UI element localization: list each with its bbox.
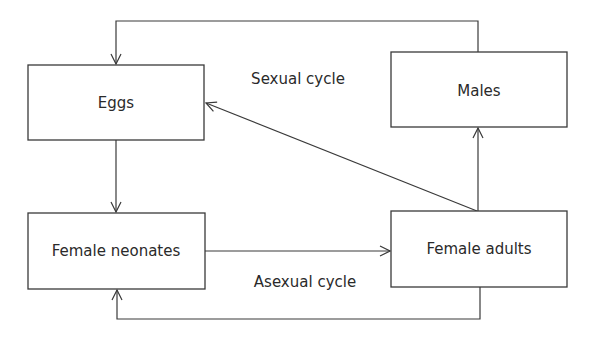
node-males-label: Males bbox=[457, 82, 501, 100]
node-males: Males bbox=[391, 52, 567, 127]
node-female-neonates: Female neonates bbox=[28, 213, 205, 289]
sexual-cycle-label: Sexual cycle bbox=[251, 70, 345, 88]
node-female-neonates-label: Female neonates bbox=[52, 242, 181, 260]
life-cycle-diagram: Eggs Males Female neonates Female adults… bbox=[0, 0, 591, 337]
asexual-cycle-label: Asexual cycle bbox=[254, 273, 356, 291]
edge-female-adults-to-female-neonates bbox=[117, 287, 480, 319]
node-female-adults: Female adults bbox=[391, 211, 567, 287]
node-female-adults-label: Female adults bbox=[426, 240, 531, 258]
node-eggs-label: Eggs bbox=[98, 94, 135, 112]
node-eggs: Eggs bbox=[28, 65, 204, 140]
